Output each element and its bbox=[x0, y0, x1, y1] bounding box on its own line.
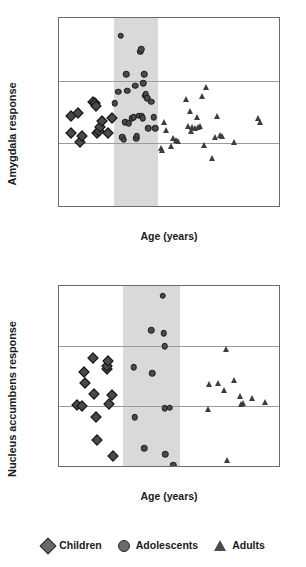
data-point-adolescents bbox=[140, 80, 147, 87]
circle-marker-icon bbox=[118, 539, 131, 552]
y-axis-label-text: Nucleus accumbens response bbox=[6, 321, 18, 477]
data-point-adults bbox=[201, 142, 207, 148]
data-point-adolescents bbox=[115, 89, 122, 96]
data-point-adolescents bbox=[167, 405, 174, 412]
data-point-children bbox=[91, 434, 102, 445]
data-point-adults bbox=[205, 406, 211, 412]
data-point-children bbox=[78, 367, 89, 378]
data-point-adolescents bbox=[148, 99, 155, 106]
data-point-adults bbox=[197, 123, 203, 129]
y-axis-label-text: Amygdala response bbox=[6, 83, 18, 186]
data-point-adolescents bbox=[120, 136, 127, 143]
data-point-children bbox=[88, 352, 99, 363]
data-point-adolescents bbox=[111, 100, 118, 107]
legend-item-adolescents: Adolescents bbox=[118, 539, 198, 552]
diamond-marker-icon bbox=[41, 539, 54, 552]
data-point-adults bbox=[194, 114, 200, 120]
data-point-adults bbox=[168, 143, 174, 149]
nucleus-accumbens-scatter-plot: 210-151015202530 bbox=[58, 285, 280, 467]
nucleus-accumbens-response-panel: Nucleus accumbens response 210-151015202… bbox=[0, 268, 306, 530]
data-point-children bbox=[103, 399, 114, 410]
data-point-adolescents bbox=[117, 32, 124, 39]
data-point-children bbox=[90, 411, 101, 422]
data-point-adolescents bbox=[160, 330, 167, 337]
data-point-adults bbox=[215, 380, 221, 386]
data-point-adults bbox=[159, 147, 165, 153]
y-axis-tick-label: 2 bbox=[58, 285, 59, 292]
adolescent-age-highlight-band bbox=[114, 18, 158, 206]
data-point-adolescents bbox=[149, 370, 156, 377]
data-point-adolescents bbox=[170, 462, 177, 467]
y-axis-tick-label: 1 bbox=[58, 17, 59, 24]
data-point-adults bbox=[249, 395, 255, 401]
data-point-adults bbox=[175, 138, 181, 144]
data-point-adults bbox=[203, 84, 209, 90]
data-point-adults bbox=[214, 113, 220, 119]
data-point-adolescents bbox=[141, 445, 148, 452]
data-point-adolescents bbox=[124, 87, 131, 94]
x-axis-label-amygdala: Age (years) bbox=[58, 230, 280, 242]
data-point-adults bbox=[257, 119, 263, 125]
gridline bbox=[59, 346, 279, 347]
y-axis-tick-label: 0 bbox=[58, 401, 59, 412]
y-axis-tick-label: 0.5 bbox=[58, 75, 59, 86]
data-point-children bbox=[89, 388, 100, 399]
circle-marker-icon-shape bbox=[118, 540, 130, 552]
data-point-adults bbox=[231, 377, 237, 383]
data-point-adults bbox=[183, 96, 189, 102]
amygdala-response-panel: Amygdala response 10.50-0.55101520253035… bbox=[0, 0, 306, 268]
data-point-adults bbox=[161, 119, 167, 125]
legend-item-label: Adolescents bbox=[136, 539, 198, 551]
diamond-marker-icon-shape bbox=[40, 537, 57, 554]
data-point-adults bbox=[224, 457, 230, 463]
data-point-children bbox=[102, 128, 113, 139]
data-point-children bbox=[79, 377, 90, 388]
data-point-adolescents bbox=[131, 364, 138, 371]
y-axis-label-amygdala: Amygdala response bbox=[0, 0, 24, 268]
data-point-adolescents bbox=[148, 327, 155, 334]
legend-item-children: Children bbox=[41, 539, 102, 552]
data-point-adults bbox=[199, 93, 205, 99]
legend-item-adults: Adults bbox=[214, 539, 265, 552]
figure-legend: ChildrenAdolescentsAdults bbox=[0, 530, 306, 560]
y-axis-tick-label: 0 bbox=[58, 138, 59, 149]
y-axis-tick-label: -1 bbox=[58, 461, 59, 468]
data-point-adults bbox=[223, 346, 229, 352]
data-point-adolescents bbox=[139, 115, 146, 122]
data-point-adults bbox=[187, 108, 193, 114]
x-axis-label-nucleus-accumbens: Age (years) bbox=[58, 490, 280, 502]
legend-item-label: Children bbox=[59, 539, 102, 551]
y-axis-label-nucleus-accumbens: Nucleus accumbens response bbox=[0, 268, 24, 530]
data-point-adults bbox=[209, 155, 215, 161]
data-point-adults bbox=[219, 133, 225, 139]
y-axis-tick-label: 1 bbox=[58, 341, 59, 352]
data-point-adults bbox=[262, 399, 268, 405]
y-axis-tick-label: -0.5 bbox=[58, 201, 59, 208]
data-point-adolescents bbox=[141, 71, 148, 78]
scientific-figure: Amygdala response 10.50-0.55101520253035… bbox=[0, 0, 306, 567]
data-point-adults bbox=[231, 139, 237, 145]
data-point-adolescents bbox=[138, 46, 145, 53]
data-point-adults bbox=[221, 387, 227, 393]
legend-item-label: Adults bbox=[232, 539, 265, 551]
data-point-adolescents bbox=[145, 125, 152, 132]
data-point-adolescents bbox=[160, 292, 167, 299]
data-point-adolescents bbox=[150, 114, 157, 121]
data-point-adults bbox=[240, 400, 246, 406]
data-point-adolescents bbox=[123, 71, 130, 78]
data-point-adolescents bbox=[162, 451, 169, 458]
triangle-marker-icon bbox=[214, 539, 227, 552]
data-point-adolescents bbox=[132, 82, 139, 89]
amygdala-scatter-plot: 10.50-0.55101520253035 bbox=[58, 17, 280, 207]
data-point-adults bbox=[206, 381, 212, 387]
data-point-children bbox=[66, 128, 77, 139]
data-point-adolescents bbox=[161, 343, 168, 350]
gridline bbox=[59, 81, 279, 82]
data-point-adolescents bbox=[152, 125, 159, 132]
data-point-adults bbox=[163, 127, 169, 133]
data-point-adolescents bbox=[133, 133, 140, 140]
data-point-adults bbox=[237, 393, 243, 399]
data-point-adolescents bbox=[131, 414, 138, 421]
triangle-marker-icon-shape bbox=[214, 540, 226, 551]
data-point-children bbox=[107, 451, 118, 462]
